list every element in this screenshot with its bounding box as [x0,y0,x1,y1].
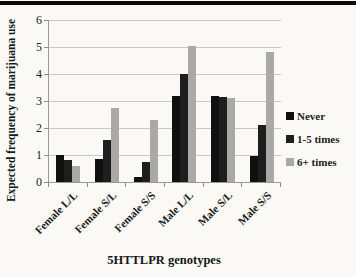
x-axis-tick [203,183,204,187]
bar-1-5-times-3 [180,74,188,182]
bar-6-times-4 [227,98,235,182]
y-axis-tick [44,20,48,21]
x-axis-tick [125,183,126,187]
y-axis-tick [44,101,48,102]
y-axis-tick-label: 2 [20,122,42,135]
bar-6-times-5 [266,52,274,182]
x-category-label: Male S/S [235,189,273,227]
bar-6-times-0 [72,166,80,182]
legend-swatch [286,135,294,143]
bar-1-5-times-4 [219,97,227,182]
gridline [49,101,281,102]
bar-6-times-1 [111,108,119,182]
y-axis-tick-label: 0 [20,176,42,189]
y-axis-title: Expected frequency of marijuana use [5,1,20,221]
legend-label: 1-5 times [297,133,339,145]
gridline [49,128,281,129]
legend-label: Never [297,110,325,122]
legend: Never1-5 times6+ times [286,110,339,179]
bar-1-5-times-1 [103,140,111,182]
legend-label: 6+ times [297,156,337,168]
x-category-label: Female S/L [72,189,118,235]
bar-never-5 [250,156,258,182]
bar-6-times-2 [150,120,158,182]
legend-swatch [286,158,294,166]
y-axis-tick [44,47,48,48]
x-axis-tick [48,183,49,187]
bar-never-1 [95,159,103,182]
gridline [49,20,281,21]
bar-1-5-times-0 [64,160,72,182]
x-axis-tick [280,183,281,187]
scanned-bar-chart-figure: Expected frequency of marijuana use 0123… [0,0,356,277]
y-axis-tick [44,74,48,75]
x-category-label: Female L/L [33,189,80,236]
x-category-label: Male L/L [156,189,196,229]
y-axis-tick-label: 1 [20,149,42,162]
y-axis-tick [44,128,48,129]
bar-never-3 [172,96,180,182]
x-axis-title: 5HTTLPR genotypes [48,253,280,268]
x-category-label: Male S/L [196,189,235,228]
y-axis-tick-label: 5 [20,41,42,54]
gridline [49,74,281,75]
x-axis-tick [164,183,165,187]
y-axis-tick [44,155,48,156]
bar-never-4 [211,96,219,182]
plot-area [48,20,281,183]
x-category-label: Female S/S [112,189,157,234]
gridline [49,155,281,156]
bar-never-0 [56,155,64,182]
gridline [49,47,281,48]
bar-1-5-times-5 [258,125,266,182]
legend-item: 6+ times [286,156,339,168]
bar-6-times-3 [188,46,196,182]
bar-chart: Expected frequency of marijuana use 0123… [0,0,356,277]
x-axis-tick [87,183,88,187]
x-axis-tick [241,183,242,187]
y-axis-tick-label: 3 [20,95,42,108]
y-axis-tick-label: 4 [20,68,42,81]
bar-never-2 [134,177,142,182]
legend-item: Never [286,110,339,122]
bar-1-5-times-2 [142,162,150,182]
legend-item: 1-5 times [286,133,339,145]
y-axis-tick-label: 6 [20,14,42,27]
legend-swatch [286,112,294,120]
